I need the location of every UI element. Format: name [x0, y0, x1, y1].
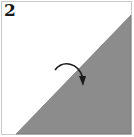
folded-triangle [16, 15, 131, 134]
fold-diagram [0, 0, 134, 137]
